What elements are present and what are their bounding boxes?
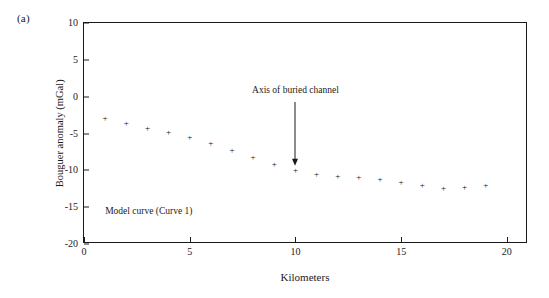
y-tick-mark xyxy=(84,207,89,208)
data-point xyxy=(419,182,426,189)
y-tick-mark xyxy=(84,96,89,97)
y-tick-label: 0 xyxy=(73,92,78,102)
data-point xyxy=(398,179,405,186)
x-tick-mark xyxy=(507,237,508,242)
y-tick-mark xyxy=(84,170,89,171)
y-tick-label: -20 xyxy=(65,239,78,249)
x-tick-mark xyxy=(295,237,296,242)
y-tick-label: 5 xyxy=(73,55,78,65)
y-tick-mark xyxy=(84,23,89,24)
x-tick-mark xyxy=(84,237,85,242)
data-point xyxy=(186,134,193,141)
y-tick-mark xyxy=(84,244,89,245)
data-point xyxy=(461,184,468,191)
data-point xyxy=(334,173,341,180)
figure-panel: (a) Bouguer anomaly (mGal) 1050-5-10-15-… xyxy=(0,0,549,298)
data-point xyxy=(229,147,236,154)
data-point xyxy=(250,154,257,161)
y-tick-label: -5 xyxy=(70,129,78,139)
model-curve-caption: Model curve (Curve 1) xyxy=(105,207,192,217)
data-point xyxy=(102,115,109,122)
x-axis-title: Kilometers xyxy=(83,272,527,283)
y-tick-label: -15 xyxy=(65,202,78,212)
data-point xyxy=(377,176,384,183)
x-tick-label: 15 xyxy=(396,247,406,257)
x-tick-label: 5 xyxy=(187,247,192,257)
y-tick-label: 10 xyxy=(68,18,78,28)
plot-area: 1050-5-10-15-20 05101520 Axis of buried … xyxy=(83,22,527,243)
x-tick-mark xyxy=(401,237,402,242)
data-point xyxy=(355,174,362,181)
channel-axis-arrow-icon xyxy=(289,102,301,166)
y-tick-mark xyxy=(84,133,89,134)
y-tick-label: -10 xyxy=(65,165,78,175)
x-tick-label: 10 xyxy=(290,247,300,257)
data-point xyxy=(123,120,130,127)
data-point xyxy=(482,182,489,189)
x-tick-label: 0 xyxy=(82,247,87,257)
y-axis-title: Bouguer anomaly (mGal) xyxy=(55,38,66,228)
data-point xyxy=(292,167,299,174)
data-point xyxy=(144,125,151,132)
panel-label: (a) xyxy=(17,13,30,24)
y-tick-mark xyxy=(84,59,89,60)
x-tick-label: 20 xyxy=(502,247,512,257)
data-point xyxy=(165,129,172,136)
channel-axis-annotation-label: Axis of buried channel xyxy=(252,86,339,96)
data-point xyxy=(440,185,447,192)
x-tick-mark xyxy=(190,237,191,242)
data-point xyxy=(207,140,214,147)
data-point xyxy=(313,171,320,178)
data-point xyxy=(271,161,278,168)
